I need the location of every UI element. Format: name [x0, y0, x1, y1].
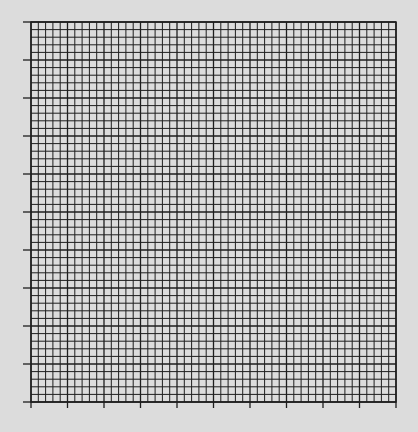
graph-paper-grid [0, 0, 418, 432]
axis-ticks [23, 22, 396, 408]
major-grid-lines [31, 22, 396, 402]
